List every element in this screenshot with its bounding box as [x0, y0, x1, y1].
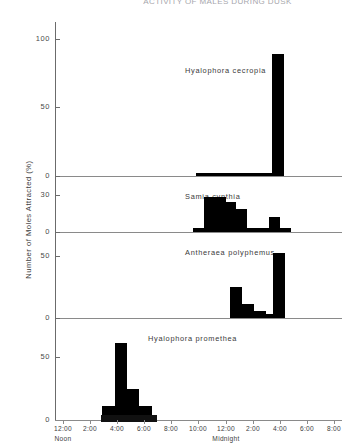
x-tick	[334, 420, 335, 424]
x-tick-label: 6:00	[137, 425, 151, 432]
data-bar	[230, 287, 242, 318]
y-tick-label: 0	[20, 227, 50, 236]
y-tick-label: 0	[20, 171, 50, 180]
night-band	[101, 415, 157, 422]
data-bar	[207, 173, 218, 176]
panel-baseline-0	[55, 176, 342, 177]
x-tick	[171, 420, 172, 424]
data-bar	[250, 173, 261, 176]
y-tick	[55, 232, 60, 233]
y-tick	[55, 318, 60, 319]
x-tick	[307, 420, 308, 424]
noon-label: Noon	[55, 435, 72, 442]
panel-baseline-1	[55, 232, 342, 233]
midnight-label: Midnight	[212, 435, 239, 442]
x-tick	[198, 420, 199, 424]
figure-canvas: ACTIVITY OF MALES DURING DUSK Number of …	[0, 0, 346, 447]
data-bar	[204, 197, 215, 232]
data-bar	[269, 217, 280, 232]
panel-baseline-2	[55, 318, 342, 319]
x-tick-label: 4:00	[273, 425, 287, 432]
species-label-2: Antheraea polyphemus	[185, 248, 275, 257]
data-bar	[247, 228, 258, 232]
y-tick	[55, 39, 60, 40]
data-bar	[239, 173, 250, 176]
y-tick-label: 50	[20, 102, 50, 111]
data-bar	[236, 209, 247, 232]
y-tick	[55, 107, 60, 108]
data-bar	[273, 253, 285, 318]
x-tick	[253, 420, 254, 424]
y-tick	[55, 256, 60, 257]
data-bar	[196, 173, 207, 176]
y-tick	[55, 195, 60, 196]
y-tick-label: 30	[20, 190, 50, 199]
species-label-0: Hyalophora cecropia	[185, 66, 266, 75]
data-bar	[215, 197, 226, 232]
data-bar	[115, 343, 127, 420]
y-tick-label: 50	[20, 251, 50, 260]
x-tick-label: 8:00	[327, 425, 341, 432]
x-tick-label: 12:00	[54, 425, 72, 432]
y-tick-label: 50	[20, 352, 50, 361]
y-tick-label: 0	[20, 415, 50, 424]
x-tick	[144, 420, 145, 424]
data-bar	[254, 311, 266, 318]
figure-title: ACTIVITY OF MALES DURING DUSK	[95, 0, 340, 6]
y-tick-label: 100	[20, 34, 50, 43]
x-tick-label: 6:00	[300, 425, 314, 432]
x-tick	[280, 420, 281, 424]
x-tick-label: 8:00	[164, 425, 178, 432]
data-bar	[217, 173, 228, 176]
data-bar	[280, 228, 291, 232]
data-bar	[272, 54, 284, 176]
x-tick	[117, 420, 118, 424]
data-bar	[261, 173, 272, 176]
x-tick	[90, 420, 91, 424]
y-tick	[55, 357, 60, 358]
x-tick-label: 10:00	[189, 425, 207, 432]
data-bar	[226, 202, 237, 232]
y-axis-line	[55, 22, 56, 420]
y-tick	[55, 176, 60, 177]
y-tick-label: 0	[20, 313, 50, 322]
x-tick-label: 2:00	[83, 425, 97, 432]
x-tick-label: 12:00	[217, 425, 235, 432]
x-tick	[63, 420, 64, 424]
data-bar	[258, 228, 269, 232]
x-tick	[226, 420, 227, 424]
x-tick-label: 2:00	[246, 425, 260, 432]
x-tick-label: 4:00	[110, 425, 124, 432]
species-label-3: Hyalophora promethea	[148, 334, 237, 343]
data-bar	[228, 173, 239, 176]
data-bar	[242, 304, 254, 318]
data-bar	[266, 314, 273, 318]
y-axis-title: Number of Moles Attracted (%)	[24, 140, 33, 300]
data-bar	[193, 228, 204, 232]
